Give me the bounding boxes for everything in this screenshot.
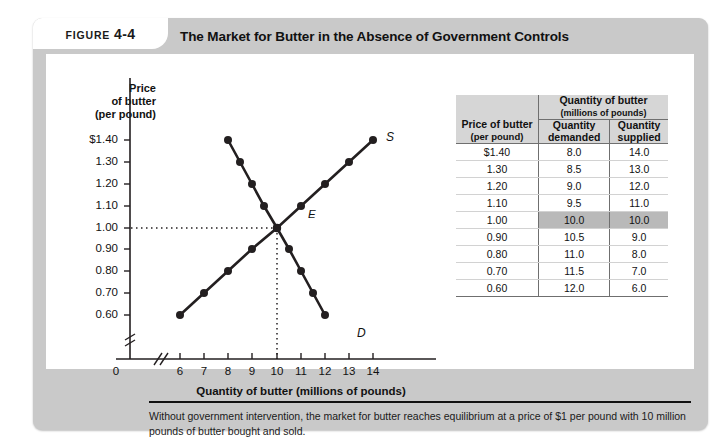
- x-tick-label-5: 10: [265, 365, 289, 377]
- table-header-demanded-line2: demanded: [548, 131, 601, 143]
- table-header-quantity-supplied: Quantity supplied: [610, 120, 668, 144]
- y-tick-label-4: 1.10: [60, 199, 118, 211]
- table-header-price-sub: (per pound): [471, 131, 524, 142]
- table-cell-quantity-supplied: 7.0: [610, 263, 668, 280]
- table-cell-quantity-demanded: 9.5: [539, 195, 610, 212]
- table-header-group-main: Quantity of butter: [559, 94, 647, 106]
- table-cell-quantity-supplied: 6.0: [610, 280, 668, 297]
- table-cell-quantity-demanded: 10.0: [539, 212, 610, 229]
- table-header-quantity-group: Quantity of butter (millions of pounds): [539, 95, 669, 120]
- x-axis-title: Quantity of butter (millions of pounds): [136, 385, 466, 397]
- table-cell-price: 1.20: [456, 178, 539, 195]
- x-tick-label-7: 12: [313, 365, 337, 377]
- figure-content-area: Price of butter (per pound): [46, 54, 694, 369]
- equilibrium-label: E: [308, 208, 316, 220]
- supply-curve-label: S: [386, 130, 394, 144]
- table-header-supplied-line2: supplied: [618, 131, 661, 143]
- table-cell-price: 0.90: [456, 229, 539, 246]
- x-tick-label-3: 8: [216, 365, 240, 377]
- table-cell-quantity-supplied: 10.0: [610, 212, 668, 229]
- table-row: 0.8011.08.0: [456, 246, 668, 263]
- figure-label-text: FIGURE 4-4: [33, 26, 168, 42]
- table-cell-quantity-demanded: 10.5: [539, 229, 610, 246]
- table-row: 1.308.513.0: [456, 161, 668, 178]
- table-cell-quantity-supplied: 9.0: [610, 229, 668, 246]
- table-cell-quantity-supplied: 14.0: [610, 144, 668, 161]
- table-row: $1.408.014.0: [456, 144, 668, 161]
- y-tick-label-5: 1.00: [60, 221, 118, 233]
- table-cell-price: 0.70: [456, 263, 539, 280]
- x-tick-label-9: 14: [361, 365, 385, 377]
- table-head: Price of butter (per pound) Quantity of …: [456, 95, 668, 144]
- table-row: 0.7011.57.0: [456, 263, 668, 280]
- table-cell-price: 1.00: [456, 212, 539, 229]
- table-cell-quantity-supplied: 8.0: [610, 246, 668, 263]
- table-cell-quantity-supplied: 13.0: [610, 161, 668, 178]
- figure-panel: FIGURE 4-4 The Market for Butter in the …: [33, 18, 708, 430]
- y-tick-label-2: 1.30: [60, 155, 118, 167]
- table-cell-price: $1.40: [456, 144, 539, 161]
- table-header-quantity-demanded: Quantity demanded: [539, 120, 610, 144]
- figure-label-word: FIGURE: [66, 29, 110, 41]
- table-cell-quantity-demanded: 11.5: [539, 263, 610, 280]
- x-tick-label-4: 9: [240, 365, 264, 377]
- y-tick-label-9: 0.60: [60, 308, 118, 320]
- x-tick-label-6: 11: [289, 365, 313, 377]
- table-cell-quantity-demanded: 8.0: [539, 144, 610, 161]
- x-axis-origin-label: 0: [106, 365, 126, 377]
- table-row: 0.9010.59.0: [456, 229, 668, 246]
- figure-caption: Without government intervention, the mar…: [149, 409, 689, 439]
- table-header-demanded-line1: Quantity: [553, 119, 596, 131]
- table-row: 1.109.511.0: [456, 195, 668, 212]
- table-cell-quantity-demanded: 12.0: [539, 280, 610, 297]
- table-cell-price: 1.10: [456, 195, 539, 212]
- table-header-row-1: Price of butter (per pound) Quantity of …: [456, 95, 668, 120]
- y-tick-label-3: 1.20: [60, 177, 118, 189]
- y-tick-label-6: 0.90: [60, 242, 118, 254]
- figure-title: The Market for Butter in the Absence of …: [180, 29, 569, 44]
- table-cell-quantity-supplied: 11.0: [610, 195, 668, 212]
- x-tick-label-1: 6: [168, 365, 192, 377]
- x-tick-label-8: 13: [337, 365, 361, 377]
- table-header-group-sub: (millions of pounds): [561, 108, 647, 118]
- demand-curve-label: D: [357, 326, 366, 340]
- equilibrium-point: [273, 224, 281, 232]
- table-header-price: Price of butter (per pound): [456, 95, 539, 144]
- table-cell-quantity-demanded: 11.0: [539, 246, 610, 263]
- table-row: 1.209.012.0: [456, 178, 668, 195]
- caption-divider: [149, 401, 691, 403]
- table-row: 0.6012.06.0: [456, 280, 668, 297]
- table-header-price-main: Price of butter: [461, 118, 532, 130]
- y-axis-ticks: [124, 140, 130, 315]
- figure-label-number: 4-4: [114, 26, 135, 42]
- table-cell-price: 0.60: [456, 280, 539, 297]
- x-tick-label-2: 7: [192, 365, 216, 377]
- table-cell-quantity-supplied: 12.0: [610, 178, 668, 195]
- table-cell-price: 1.30: [456, 161, 539, 178]
- y-tick-label-8: 0.70: [60, 286, 118, 298]
- y-tick-label-1: $1.40: [60, 133, 118, 145]
- table-cell-price: 0.80: [456, 246, 539, 263]
- table-row: 1.0010.010.0: [456, 212, 668, 229]
- figure-header: FIGURE 4-4 The Market for Butter in the …: [33, 18, 708, 56]
- table-cell-quantity-demanded: 8.5: [539, 161, 610, 178]
- figure-label-tab: FIGURE 4-4: [33, 18, 168, 49]
- table-header-supplied-line1: Quantity: [618, 119, 661, 131]
- supply-demand-table: Price of butter (per pound) Quantity of …: [456, 95, 668, 297]
- y-tick-label-7: 0.80: [60, 264, 118, 276]
- table-body: $1.408.014.01.308.513.01.209.012.01.109.…: [456, 144, 668, 297]
- table-cell-quantity-demanded: 9.0: [539, 178, 610, 195]
